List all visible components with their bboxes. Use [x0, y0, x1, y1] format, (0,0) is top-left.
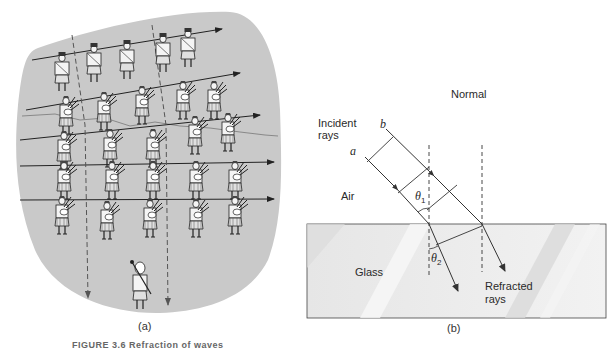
panel-a-label: (a) [138, 320, 151, 332]
theta1-label: θ1 [415, 190, 425, 207]
glass-label: Glass [355, 266, 383, 278]
theta2-label: θ2 [431, 252, 441, 269]
incident-rays-label-line1: Incident [318, 117, 357, 129]
ray-a-label: a [350, 145, 356, 157]
refracted-rays-label-line2: rays [485, 293, 506, 305]
refracted-rays-label-line1: Refracted [485, 280, 533, 292]
glass-slab [307, 224, 606, 318]
panel-b-label: (b) [447, 322, 460, 334]
panel-a-marching-band: (a) [0, 0, 300, 349]
refraction-ray-diagram [300, 0, 613, 349]
normal-label: Normal [451, 88, 486, 100]
ray-b-label: b [380, 118, 386, 130]
marching-band-illustration [0, 0, 300, 349]
figure-caption: FIGURE 3.6 Refraction of waves [72, 340, 224, 349]
incident-rays [365, 129, 482, 224]
incident-rays-label-line2: rays [318, 129, 339, 141]
air-label: Air [341, 190, 354, 202]
panel-b-ray-diagram: Incident rays b a Normal Air Glass θ1 θ2… [300, 0, 613, 349]
